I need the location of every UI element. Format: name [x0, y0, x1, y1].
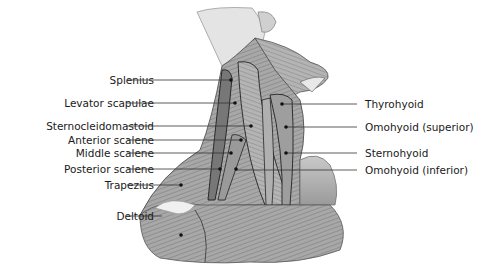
anatomy-diagram: Splenius Levator scapulae Sternocleidoma…	[0, 0, 487, 271]
leader-lines	[0, 0, 487, 271]
